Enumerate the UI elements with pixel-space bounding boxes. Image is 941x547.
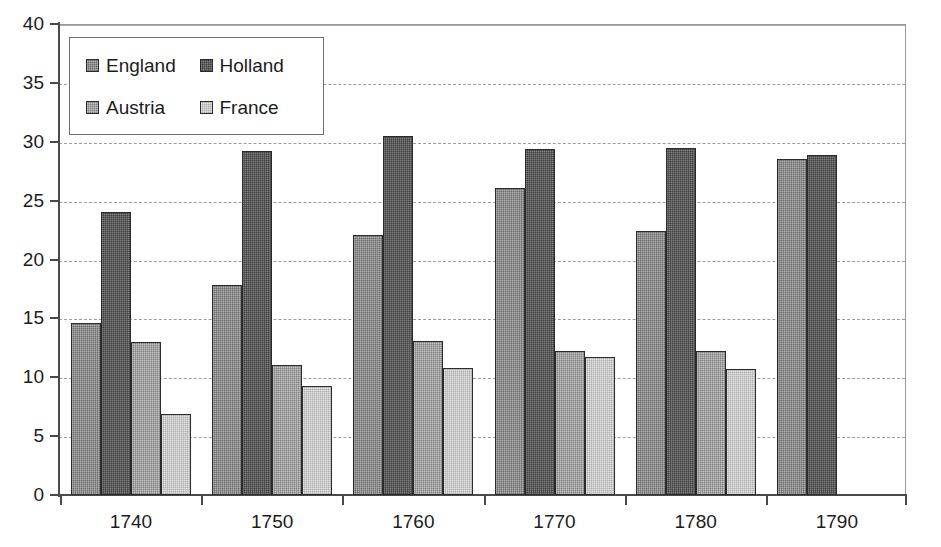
bar-chart: 0510152025303540 17401750176017701780179… (0, 0, 941, 547)
y-axis-label: 25 (0, 191, 44, 210)
legend-swatch-france-icon (200, 101, 213, 114)
y-axis-tick (50, 141, 59, 143)
bar-england-1750 (212, 285, 242, 495)
x-axis-label: 1750 (212, 512, 332, 531)
legend-entry-holland: Holland (200, 56, 314, 75)
bar-austria-1740 (131, 342, 161, 495)
y-axis-tick (50, 435, 59, 437)
y-axis-label: 10 (0, 367, 44, 386)
bar-france-1780 (726, 369, 756, 495)
y-axis-label: 5 (0, 426, 44, 445)
y-axis-label: 15 (0, 308, 44, 327)
x-axis-tick (766, 495, 768, 505)
bar-england-1770 (495, 188, 525, 495)
x-axis-tick (342, 495, 344, 505)
bar-holland-1740 (101, 212, 131, 495)
bar-england-1790 (777, 159, 807, 495)
chart-legend: England Holland Austria France (69, 37, 324, 135)
legend-label-austria: Austria (106, 98, 165, 117)
bar-austria-1770 (555, 351, 585, 495)
x-axis-label: 1790 (777, 512, 897, 531)
legend-label-holland: Holland (220, 56, 284, 75)
legend-swatch-austria-icon (86, 101, 99, 114)
x-axis-label: 1760 (353, 512, 473, 531)
y-axis-tick (50, 376, 59, 378)
legend-swatch-england-icon (86, 59, 99, 72)
x-axis-label: 1740 (71, 512, 191, 531)
x-axis-tick (60, 495, 62, 505)
x-axis-tick (625, 495, 627, 505)
y-axis-tick (50, 82, 59, 84)
y-axis-tick (50, 23, 59, 25)
bar-austria-1760 (413, 341, 443, 495)
bar-holland-1790 (807, 155, 837, 495)
bar-france-1760 (443, 368, 473, 495)
bar-england-1780 (636, 231, 666, 495)
bar-france-1770 (585, 357, 615, 495)
x-axis-tick (484, 495, 486, 505)
y-axis-label: 35 (0, 73, 44, 92)
legend-entry-france: France (200, 98, 314, 117)
y-axis-tick (50, 259, 59, 261)
y-axis-tick (50, 317, 59, 319)
legend-swatch-holland-icon (200, 59, 213, 72)
bar-austria-1780 (696, 351, 726, 495)
legend-label-england: England (106, 56, 176, 75)
bar-england-1760 (353, 235, 383, 495)
bar-holland-1770 (525, 149, 555, 495)
bar-england-1740 (71, 323, 101, 495)
x-axis-tick (905, 495, 907, 505)
y-axis-label: 0 (0, 485, 44, 504)
legend-entry-england: England (86, 56, 200, 75)
x-axis-label: 1770 (495, 512, 615, 531)
legend-label-france: France (220, 98, 279, 117)
y-axis-tick (50, 200, 59, 202)
bar-france-1740 (161, 414, 191, 495)
y-axis-label: 30 (0, 132, 44, 151)
bar-holland-1760 (383, 136, 413, 495)
legend-entry-austria: Austria (86, 98, 200, 117)
x-axis-tick (201, 495, 203, 505)
x-axis-label: 1780 (636, 512, 756, 531)
bar-austria-1750 (272, 365, 302, 495)
y-axis-label: 40 (0, 14, 44, 33)
y-axis-label: 20 (0, 250, 44, 269)
bar-holland-1750 (242, 151, 272, 495)
bar-france-1750 (302, 386, 332, 496)
bar-holland-1780 (666, 148, 696, 495)
y-axis-tick (50, 494, 59, 496)
